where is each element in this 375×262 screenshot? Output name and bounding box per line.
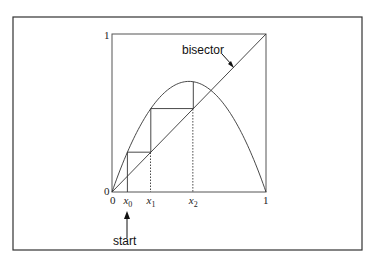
x-min-label: 0 — [110, 194, 116, 206]
cobweb-figure: 0 1 0 1 x0x1x2 bisector start — [0, 0, 375, 262]
x-max-label: 1 — [263, 194, 269, 206]
bisector-line — [112, 34, 266, 192]
iterate-label-x2: x2 — [188, 194, 198, 209]
iterate-guides — [151, 109, 193, 192]
start-label: start — [113, 234, 137, 248]
iterate-label-x1: x1 — [146, 194, 156, 209]
bisector-label: bisector — [182, 43, 224, 57]
iterate-label-x0: x0 — [122, 194, 132, 209]
y-max-label: 1 — [104, 29, 110, 41]
iterate-labels: x0x1x2 — [122, 194, 197, 209]
map-curve — [112, 81, 266, 192]
start-arrow-head — [124, 211, 130, 219]
cobweb-path-group — [127, 82, 193, 192]
